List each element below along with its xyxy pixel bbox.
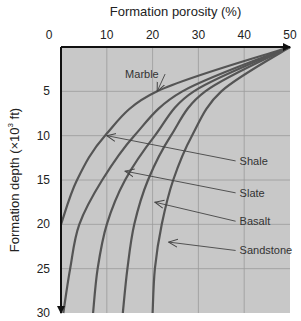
annotation-label-slate: Slate xyxy=(240,187,265,199)
x-tick-label: 10 xyxy=(100,28,114,42)
x-tick-label: 20 xyxy=(146,28,160,42)
annotation-label-sandstone: Sandstone xyxy=(240,244,293,256)
x-tick-label: 0 xyxy=(46,28,53,42)
x-tick-label: 40 xyxy=(238,28,252,42)
annotation-label-basalt: Basalt xyxy=(240,215,271,227)
y-tick-label: 15 xyxy=(37,173,51,187)
y-tick-label: 20 xyxy=(37,217,51,231)
x-tick-label: 50 xyxy=(283,28,297,42)
y-tick-label: 10 xyxy=(37,129,51,143)
y-tick-label: 25 xyxy=(37,262,51,276)
y-tick-label: 30 xyxy=(37,306,51,320)
annotation-label-shale: Shale xyxy=(240,155,268,167)
y-tick-label: 5 xyxy=(43,84,50,98)
annotation-label-marble: Marble xyxy=(125,68,159,80)
porosity-depth-chart: MarbleShaleSlateBasaltSandstone 01020304… xyxy=(0,0,301,321)
x-tick-label: 30 xyxy=(192,28,206,42)
